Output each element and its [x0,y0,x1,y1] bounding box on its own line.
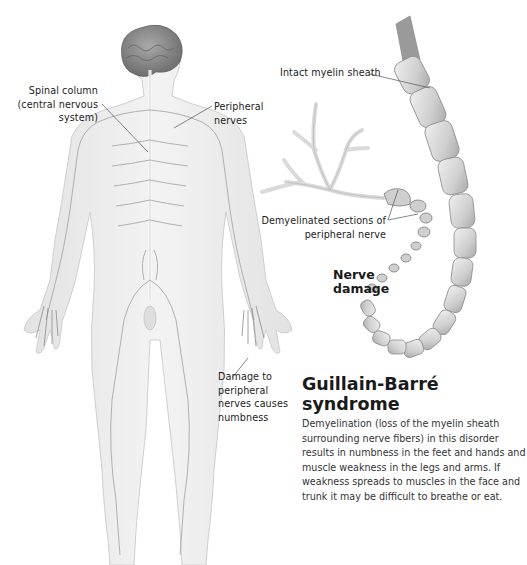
label-spinal-column: Spinal column (central nervous system) [10,84,98,125]
label-intact-myelin: Intact myelin sheath [280,66,381,80]
label-damage-numbness: Damage to peripheral nerves causes numbn… [218,370,288,424]
dendrites [262,104,384,198]
diagram-description: Demyelination (loss of the myelin sheath… [302,417,527,505]
label-nerve-damage: Nerve damage [333,268,389,296]
diagram-title: Guillain-Barré syndrome [302,374,517,414]
label-peripheral-nerves: Peripheral nerves [214,100,264,127]
brain-icon [121,25,182,76]
label-demyelinated: Demyelinated sections of peripheral nerv… [260,214,386,241]
